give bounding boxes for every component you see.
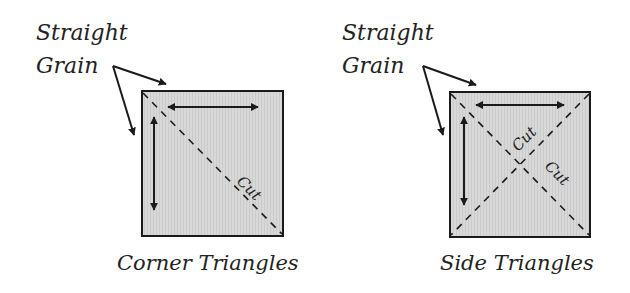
pointer-arrow-icon [113,66,134,135]
quilt-diagram: Straight Grain Cut Corner Triangles Stra… [0,0,630,293]
caption-corner-triangles: Corner Triangles [117,251,299,275]
straight-grain-label-line2: Grain [342,53,404,78]
pointer-arrow-icon [423,66,443,135]
caption-side-triangles: Side Triangles [440,251,594,275]
pointer-arrow-icon [423,66,476,85]
straight-grain-label-line2: Grain [36,53,98,78]
side-triangles-diagram: Straight Grain Cut Cut Side Triangles [342,20,594,275]
straight-grain-label-line1: Straight [36,20,128,45]
corner-triangles-diagram: Straight Grain Cut Corner Triangles [36,20,299,275]
pointer-arrow-icon [113,66,166,84]
straight-grain-label-line1: Straight [342,20,434,45]
